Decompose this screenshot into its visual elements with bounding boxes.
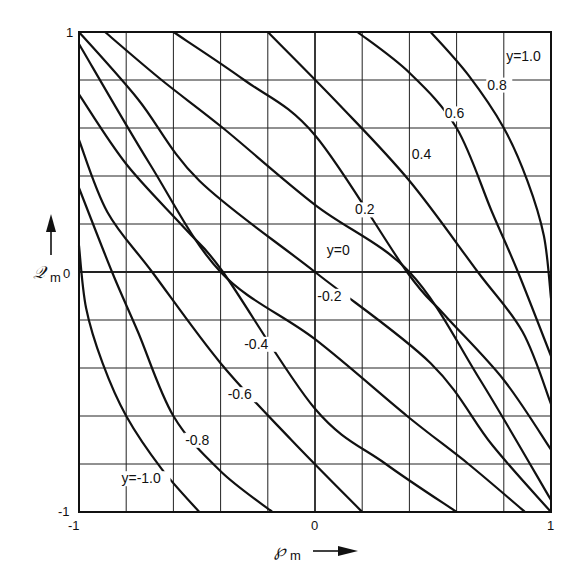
y-tick-top: 1 xyxy=(66,25,73,40)
y-axis-title: 𝒬 m 0 xyxy=(33,214,70,285)
curve-label: y=0 xyxy=(327,242,350,258)
y-axis-symbol: 𝒬 xyxy=(33,262,48,282)
curve-label: 0.2 xyxy=(355,201,375,217)
curve-label: -0.4 xyxy=(244,336,268,352)
y-axis-subscript: m xyxy=(50,270,61,285)
x-axis-symbol: ℘ xyxy=(274,540,287,560)
curve-label: y=-1.0 xyxy=(121,470,161,486)
x-axis-subscript: m xyxy=(290,548,301,563)
x-axis-title: ℘ m xyxy=(274,540,358,563)
curve-y1.0 xyxy=(431,32,551,298)
curve-label: 0.6 xyxy=(445,105,465,121)
curve-label: -0.6 xyxy=(228,386,252,402)
y-tick-bottom: -1 xyxy=(58,504,70,519)
curve-label: -0.2 xyxy=(317,288,341,304)
x-tick-mid: 0 xyxy=(311,518,318,533)
x-tick-left: -1 xyxy=(68,518,80,533)
x-tick-right: 1 xyxy=(547,518,554,533)
curve-label: y=1.0 xyxy=(506,48,541,64)
y-axis-zero-label: 0 xyxy=(63,266,70,281)
curve-y0.2 xyxy=(105,32,551,500)
curve-label: -0.8 xyxy=(185,432,209,448)
right-arrow-icon xyxy=(338,546,358,556)
chart: y=-1.0-0.8-0.6-0.4-0.2y=00.20.40.60.8y=1… xyxy=(0,0,582,584)
curve-label: 0.8 xyxy=(487,77,507,93)
curve-labels: y=-1.0-0.8-0.6-0.4-0.2y=00.20.40.60.8y=1… xyxy=(120,48,547,486)
curve-label: 0.4 xyxy=(412,146,432,162)
curve-y0.8 xyxy=(357,32,551,356)
up-arrow-icon xyxy=(46,214,56,232)
